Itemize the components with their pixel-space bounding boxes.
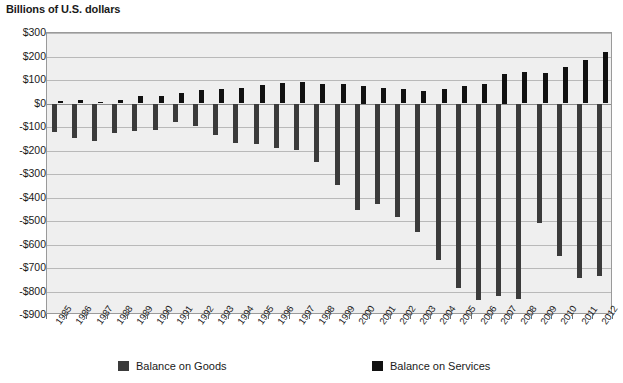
y-axis-tick-label: $100: [0, 73, 46, 85]
bar-services[interactable]: [341, 84, 346, 104]
bar-group: [552, 33, 572, 313]
bar-goods[interactable]: [456, 104, 461, 288]
bar-goods[interactable]: [537, 104, 542, 224]
bar-goods[interactable]: [476, 104, 481, 301]
x-axis-tick: [66, 314, 67, 319]
x-axis-tick: [208, 314, 209, 319]
x-axis-tick: [309, 314, 310, 319]
bar-group: [108, 33, 128, 313]
bar-services[interactable]: [78, 100, 83, 103]
bar-goods[interactable]: [294, 104, 299, 151]
bar-goods[interactable]: [213, 104, 218, 135]
x-axis-tick: [410, 314, 411, 319]
bar-goods[interactable]: [274, 104, 279, 149]
bar-services[interactable]: [462, 86, 467, 104]
plot-area: [46, 32, 612, 314]
bar-services[interactable]: [381, 88, 386, 103]
x-axis-tick: [127, 314, 128, 319]
x-axis-tick: [511, 314, 512, 319]
bar-goods[interactable]: [516, 104, 521, 300]
bar-goods[interactable]: [375, 104, 380, 204]
x-axis-tick: [349, 314, 350, 319]
bar-goods[interactable]: [557, 104, 562, 256]
y-axis-tick-label: -$700: [0, 261, 46, 273]
bar-group: [411, 33, 431, 313]
y-axis-tick-label: -$900: [0, 308, 46, 320]
bar-services[interactable]: [442, 89, 447, 104]
bar-services[interactable]: [300, 82, 305, 103]
x-axis-tick: [551, 314, 552, 319]
bar-goods[interactable]: [52, 104, 57, 133]
bar-goods[interactable]: [395, 104, 400, 217]
bar-services[interactable]: [239, 88, 244, 104]
bar-services[interactable]: [482, 84, 487, 104]
bar-group: [573, 33, 593, 313]
bar-group: [148, 33, 168, 313]
plot-inner: [47, 33, 611, 313]
y-axis-tick-label: $300: [0, 26, 46, 38]
legend-item-services[interactable]: Balance on Services: [372, 360, 490, 372]
legend-swatch-services-icon: [372, 361, 383, 371]
bar-goods[interactable]: [355, 104, 360, 210]
bar-goods[interactable]: [132, 104, 137, 131]
bar-goods[interactable]: [314, 104, 319, 162]
bar-services[interactable]: [179, 93, 184, 104]
bar-services[interactable]: [421, 91, 426, 104]
bar-goods[interactable]: [597, 104, 602, 277]
bar-services[interactable]: [522, 72, 527, 104]
bar-services[interactable]: [260, 85, 265, 103]
bar-group: [391, 33, 411, 313]
bar-group: [47, 33, 67, 313]
bar-services[interactable]: [58, 101, 63, 103]
chart-axis-title: Billions of U.S. dollars: [6, 3, 120, 15]
x-axis-tick: [268, 314, 269, 319]
x-axis-tick: [572, 314, 573, 319]
bar-goods[interactable]: [173, 104, 178, 122]
bar-goods[interactable]: [496, 104, 501, 297]
legend-item-goods[interactable]: Balance on Goods: [118, 360, 227, 372]
bar-services[interactable]: [583, 60, 588, 104]
bar-services[interactable]: [603, 52, 608, 104]
bar-goods[interactable]: [193, 104, 198, 127]
bar-services[interactable]: [159, 96, 164, 103]
y-axis-tick-label: -$300: [0, 167, 46, 179]
bar-goods[interactable]: [335, 104, 340, 185]
y-axis-tick-label: $0: [0, 97, 46, 109]
bar-goods[interactable]: [153, 104, 158, 130]
bar-goods[interactable]: [436, 104, 441, 260]
bar-services[interactable]: [320, 84, 325, 103]
bar-goods[interactable]: [233, 104, 238, 143]
bar-goods[interactable]: [254, 104, 259, 145]
x-axis-tick: [329, 314, 330, 319]
x-axis-tick: [450, 314, 451, 319]
bar-services[interactable]: [401, 89, 406, 104]
y-axis-tick-label: -$500: [0, 214, 46, 226]
y-axis-tick-label: -$400: [0, 191, 46, 203]
bar-services[interactable]: [280, 83, 285, 103]
bar-services[interactable]: [138, 96, 143, 103]
bar-goods[interactable]: [577, 104, 582, 278]
bar-services[interactable]: [563, 67, 568, 103]
bar-services[interactable]: [502, 74, 507, 103]
bar-services[interactable]: [118, 100, 123, 104]
bar-group: [350, 33, 370, 313]
bar-group: [189, 33, 209, 313]
y-axis-tick-label: -$600: [0, 238, 46, 250]
bar-goods[interactable]: [92, 104, 97, 142]
bar-goods[interactable]: [415, 104, 420, 233]
x-axis-tick: [471, 314, 472, 319]
bar-services[interactable]: [219, 89, 224, 103]
x-axis-tick: [167, 314, 168, 319]
bar-goods[interactable]: [72, 104, 77, 138]
y-axis-tick-label: $200: [0, 50, 46, 62]
legend-label-goods: Balance on Goods: [136, 360, 227, 372]
x-axis-tick: [289, 314, 290, 319]
x-axis-tick: [491, 314, 492, 319]
bar-services[interactable]: [199, 90, 204, 103]
bar-group: [532, 33, 552, 313]
bar-goods[interactable]: [112, 104, 117, 134]
bar-group: [431, 33, 451, 313]
bar-services[interactable]: [543, 73, 548, 104]
bar-services[interactable]: [98, 102, 103, 104]
bar-services[interactable]: [361, 86, 366, 104]
